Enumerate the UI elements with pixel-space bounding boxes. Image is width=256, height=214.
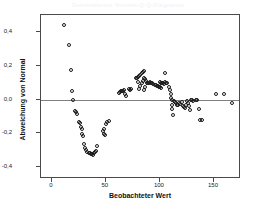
y-tick-mark xyxy=(36,132,40,133)
data-point xyxy=(142,69,146,73)
data-point xyxy=(70,89,74,93)
data-point xyxy=(62,23,66,27)
y-tick-label: -0,2 xyxy=(0,128,12,136)
data-point xyxy=(200,118,204,122)
detrended-normal-qq-chart: Detrendiertes Normal-Q-Q-Diagramm 0,40,2… xyxy=(0,0,256,214)
y-tick-mark xyxy=(36,166,40,167)
data-point xyxy=(222,92,226,96)
x-tick-label: 100 xyxy=(144,182,174,188)
data-point xyxy=(197,107,201,111)
data-point xyxy=(71,98,75,102)
x-tick-label: 0 xyxy=(36,182,66,188)
data-point xyxy=(75,112,79,116)
data-point xyxy=(102,127,106,131)
data-point xyxy=(95,144,99,148)
data-point xyxy=(188,108,192,112)
data-point xyxy=(107,119,111,123)
x-tick-label: 50 xyxy=(90,182,120,188)
x-axis-label: Beobachteter Wert xyxy=(40,192,240,199)
y-tick-label: -0,4 xyxy=(0,162,12,170)
data-point xyxy=(159,86,163,90)
plot-area xyxy=(40,14,240,178)
y-tick-label: 0,2 xyxy=(0,61,12,69)
y-tick-label: 0,4 xyxy=(0,27,12,35)
chart-title: Detrendiertes Normal-Q-Q-Diagramm xyxy=(0,0,256,10)
data-point xyxy=(81,134,85,138)
x-tick-label: 150 xyxy=(198,182,228,188)
data-point xyxy=(170,107,174,111)
data-point xyxy=(129,87,133,91)
y-tick-mark xyxy=(36,31,40,32)
data-point xyxy=(171,113,175,117)
y-tick-mark xyxy=(36,99,40,100)
data-point xyxy=(230,101,234,105)
y-tick-mark xyxy=(36,65,40,66)
y-tick-label: 0,0 xyxy=(0,95,12,103)
data-point xyxy=(214,92,218,96)
data-point xyxy=(103,133,107,137)
data-point xyxy=(124,94,128,98)
data-point xyxy=(163,71,167,75)
y-axis-label: Abweichung von Normal xyxy=(19,25,26,175)
data-point xyxy=(69,68,73,72)
data-point xyxy=(80,127,84,131)
data-point xyxy=(94,149,98,153)
data-point xyxy=(143,85,147,89)
data-point xyxy=(195,98,199,102)
data-point xyxy=(67,43,71,47)
